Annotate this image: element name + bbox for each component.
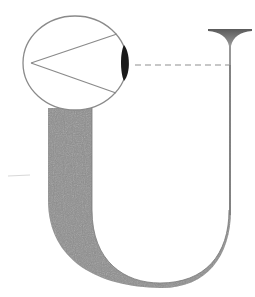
eye-circle (23, 16, 127, 110)
stray-tick-mark (8, 175, 30, 176)
u-tube-eye-diagram (0, 0, 255, 297)
funnel-top (208, 29, 252, 46)
u-tube-inner-edge (92, 108, 229, 283)
